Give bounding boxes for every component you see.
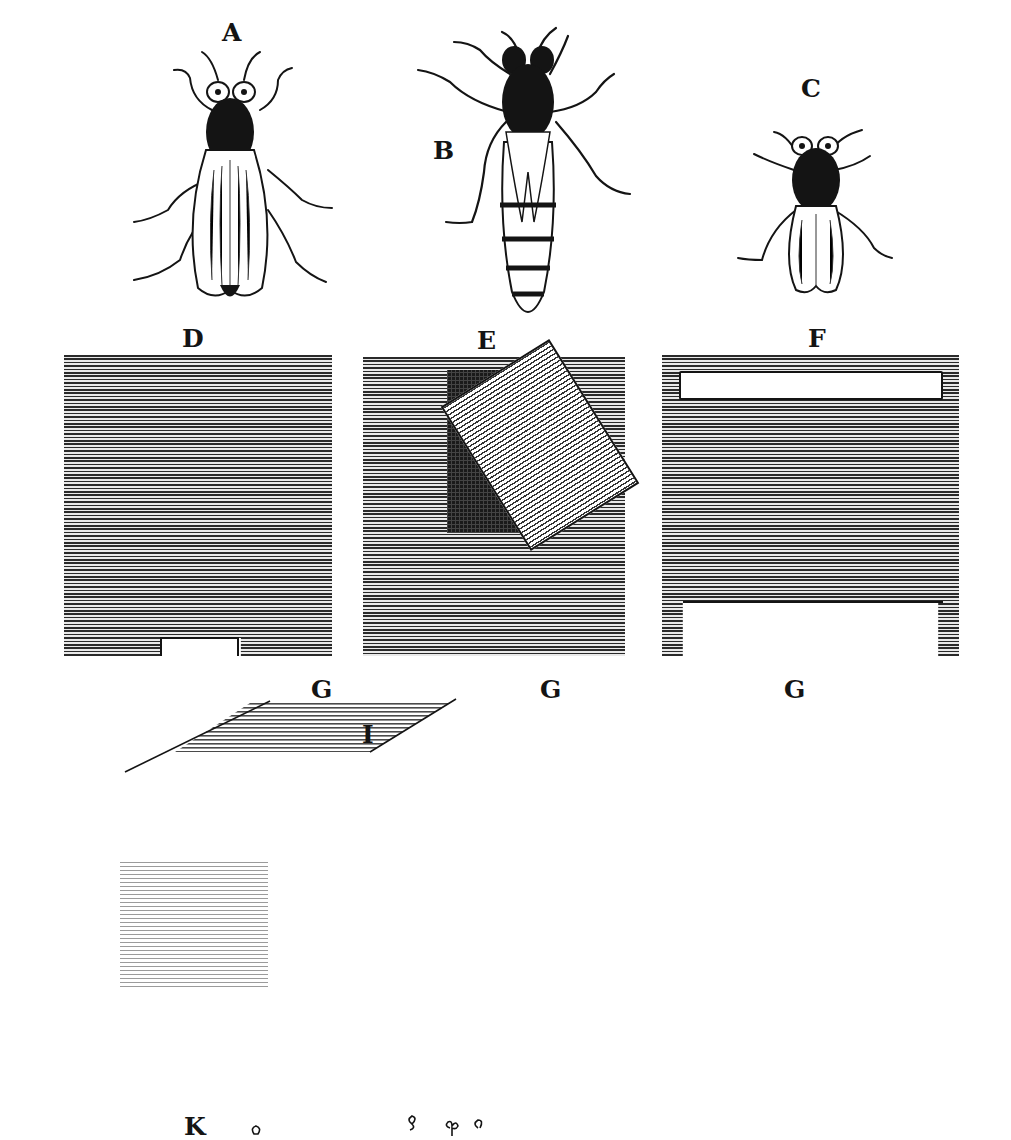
hive-board-f [662, 355, 959, 656]
label-k: K [184, 1114, 206, 1139]
bee-a-drone-illustration [120, 40, 350, 310]
label-g-right: G [784, 677, 805, 702]
label-c: C [801, 76, 821, 101]
small-bee-glyphs [240, 1112, 500, 1140]
engraving-plate: A B C D E F G G G K [0, 0, 1011, 1140]
bee-c-worker-illustration [730, 110, 910, 300]
alighting-board-i [120, 695, 460, 775]
label-f: F [808, 326, 826, 351]
top-slot-f [679, 371, 943, 400]
label-g-middle: G [540, 677, 561, 702]
label-i: I [362, 722, 374, 747]
bottom-opening-edge-f [683, 601, 943, 603]
entrance-notch-d [160, 637, 239, 656]
bee-b-queen-illustration [410, 22, 650, 332]
illegible-text-block [120, 862, 268, 988]
hive-board-d [64, 355, 332, 656]
label-d: D [182, 326, 204, 351]
